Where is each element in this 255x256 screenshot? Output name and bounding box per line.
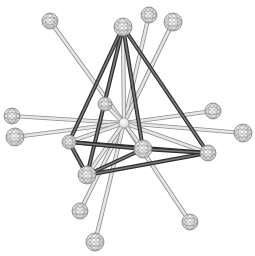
center-hub	[119, 118, 129, 128]
sphere-mesh	[98, 97, 111, 110]
sphere-node	[114, 18, 132, 36]
sphere-mesh	[4, 108, 19, 123]
sphere-mesh	[72, 203, 87, 218]
sphere-mesh	[86, 233, 103, 250]
sphere-mesh	[134, 140, 151, 157]
sphere-mesh	[164, 13, 181, 30]
ball-and-stick-structure	[0, 0, 255, 256]
sphere-mesh	[205, 103, 220, 118]
sphere-mesh	[182, 214, 197, 229]
sphere-node	[205, 103, 221, 119]
sphere-mesh	[141, 7, 156, 22]
sphere-node	[6, 128, 24, 146]
sphere-node	[164, 13, 182, 31]
sphere-node	[86, 233, 104, 251]
sphere-node	[200, 145, 216, 161]
sphere-mesh	[42, 13, 57, 28]
sphere-node	[72, 203, 88, 219]
sphere-node	[134, 140, 152, 158]
sphere-mesh	[6, 128, 23, 145]
frame-edge-core	[123, 27, 208, 153]
rod-core	[12, 116, 124, 123]
sphere-mesh	[114, 18, 131, 35]
diagram-canvas	[0, 0, 255, 256]
sphere-mesh	[78, 166, 95, 183]
sphere-node	[62, 135, 76, 149]
sphere-mesh	[200, 145, 215, 160]
sphere-node	[42, 13, 58, 29]
sphere-node	[234, 124, 252, 142]
sphere-node	[98, 97, 112, 111]
sphere-node	[182, 214, 198, 230]
sphere-node	[78, 166, 96, 184]
sphere-node	[4, 108, 20, 124]
sphere-mesh	[62, 135, 75, 148]
sphere-mesh	[234, 124, 251, 141]
sphere-node	[141, 7, 157, 23]
